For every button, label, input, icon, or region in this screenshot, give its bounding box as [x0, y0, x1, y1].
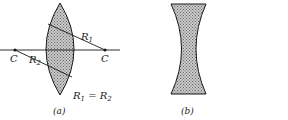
center-label-left: C — [10, 53, 18, 64]
biconcave-lens — [171, 4, 206, 94]
lens-diagram: C C R1 R2 R1 = R2 (a) (b) — [0, 0, 288, 120]
radius-equality-equation: R1 = R2 — [72, 90, 112, 103]
biconvex-lens — [46, 3, 74, 95]
panel-a: C C R1 R2 R1 = R2 (a) — [0, 3, 120, 116]
caption-b: (b) — [181, 106, 194, 116]
caption-a: (a) — [53, 106, 66, 116]
center-label-right: C — [101, 53, 109, 64]
radius-2-label: R2 — [28, 54, 42, 67]
panel-b: (b) — [171, 4, 206, 116]
